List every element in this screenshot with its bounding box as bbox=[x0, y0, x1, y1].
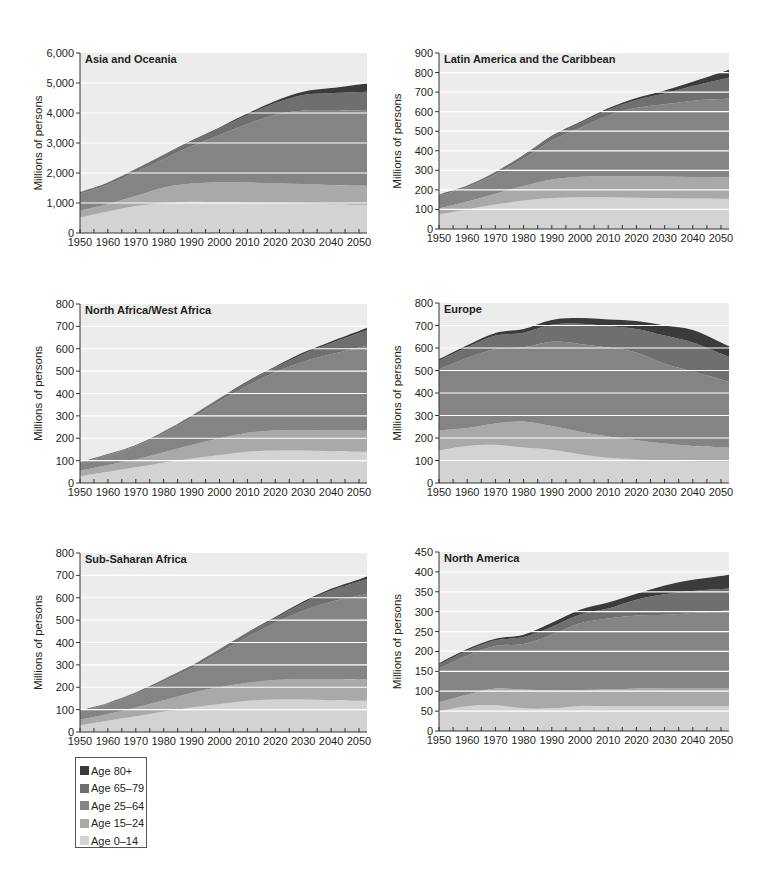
chart-north-america: 0501001502002503003504004501950196019701… bbox=[0, 0, 769, 872]
legend-label: Age 0–14 bbox=[91, 835, 138, 847]
legend-swatch-age-25-64 bbox=[80, 801, 89, 810]
x-tick-label: 1960 bbox=[455, 734, 479, 746]
legend-label: Age 65–79 bbox=[91, 782, 144, 794]
y-tick-label: 50 bbox=[421, 705, 433, 717]
x-tick-label: 1990 bbox=[540, 734, 564, 746]
x-tick-label: 2010 bbox=[596, 734, 620, 746]
x-tick-label: 2040 bbox=[681, 734, 705, 746]
area-age-0-14 bbox=[439, 705, 729, 731]
x-tick-label: 1980 bbox=[511, 734, 535, 746]
legend-swatch-age-80-plus bbox=[80, 766, 89, 775]
legend-swatch-age-65-79 bbox=[80, 784, 89, 793]
legend-swatch-age-0-14 bbox=[80, 836, 89, 845]
y-tick-label: 100 bbox=[415, 685, 433, 697]
legend-label: Age 15–24 bbox=[91, 817, 144, 829]
legend-item-age-80-plus: Age 80+ bbox=[80, 762, 146, 780]
legend: Age 80+ Age 65–79 Age 25–64 Age 15–24 Ag… bbox=[75, 757, 147, 848]
y-tick-label: 450 bbox=[415, 546, 433, 558]
y-tick-label: 400 bbox=[415, 566, 433, 578]
legend-label: Age 25–64 bbox=[91, 800, 144, 812]
y-tick-label: 300 bbox=[415, 606, 433, 618]
chart-title: North America bbox=[444, 552, 520, 564]
y-tick-label: 350 bbox=[415, 586, 433, 598]
legend-swatch-age-15-24 bbox=[80, 819, 89, 828]
legend-item-age-0-14: Age 0–14 bbox=[80, 832, 146, 850]
x-tick-label: 2000 bbox=[568, 734, 592, 746]
x-tick-label: 2050 bbox=[709, 734, 733, 746]
y-tick-label: 200 bbox=[415, 645, 433, 657]
y-tick-label: 250 bbox=[415, 626, 433, 638]
x-tick-label: 2020 bbox=[624, 734, 648, 746]
y-axis-label: Millions of persons bbox=[391, 594, 403, 689]
x-tick-label: 1950 bbox=[427, 734, 451, 746]
legend-label: Age 80+ bbox=[91, 765, 132, 777]
x-tick-label: 2030 bbox=[652, 734, 676, 746]
y-tick-label: 150 bbox=[415, 665, 433, 677]
legend-item-age-25-64: Age 25–64 bbox=[80, 797, 146, 815]
legend-item-age-15-24: Age 15–24 bbox=[80, 815, 146, 833]
x-tick-label: 1970 bbox=[483, 734, 507, 746]
legend-item-age-65-79: Age 65–79 bbox=[80, 780, 146, 798]
